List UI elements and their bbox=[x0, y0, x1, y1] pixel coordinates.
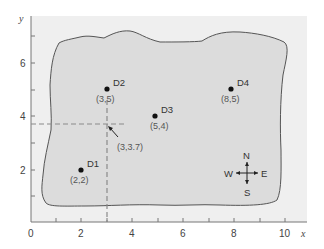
x-axis-label: x bbox=[300, 228, 306, 239]
x-tick-4: 4 bbox=[129, 228, 135, 239]
compass-west: W bbox=[224, 168, 233, 179]
y-tick-4: 4 bbox=[20, 111, 26, 122]
point-d2-coords: (3,5) bbox=[96, 94, 115, 104]
point-d2-name: D2 bbox=[113, 77, 125, 88]
x-tick-10: 10 bbox=[279, 228, 291, 239]
point-d3-coords: (5,4) bbox=[150, 121, 169, 131]
point-d4-coords: (8,5) bbox=[221, 94, 240, 104]
compass-north: N bbox=[243, 150, 250, 161]
point-d2 bbox=[104, 86, 109, 91]
point-d4 bbox=[228, 86, 233, 91]
y-tick-6: 6 bbox=[20, 58, 26, 69]
x-tick-6: 6 bbox=[180, 228, 186, 239]
y-axis-label: y bbox=[18, 13, 24, 24]
x-tick-2: 2 bbox=[78, 228, 84, 239]
compass-east: E bbox=[261, 168, 267, 179]
point-d1 bbox=[78, 167, 83, 172]
point-d4-name: D4 bbox=[237, 77, 249, 88]
x-tick-0: 0 bbox=[28, 228, 34, 239]
point-d1-coords: (2,2) bbox=[70, 175, 89, 185]
point-d3 bbox=[152, 113, 157, 118]
y-tick-2: 2 bbox=[20, 165, 26, 176]
point-d3-name: D3 bbox=[161, 104, 173, 115]
x-tick-8: 8 bbox=[231, 228, 237, 239]
location-diagram: 2 4 6 y 0 2 4 6 8 10 x (3,3.7) D1 (2,2) … bbox=[0, 0, 324, 249]
optimal-point-label: (3,3.7) bbox=[117, 142, 143, 152]
compass-south: S bbox=[244, 187, 250, 198]
point-d1-name: D1 bbox=[87, 158, 99, 169]
